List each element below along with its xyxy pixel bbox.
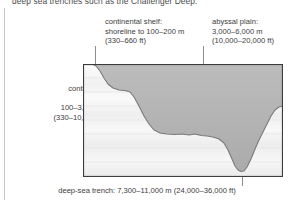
label-continental-shelf-line3: (330–660 ft)	[105, 36, 184, 46]
label-continental-shelf: continental shelf: shoreline to 100–200 …	[105, 17, 184, 46]
label-deep-sea-trench-line1: deep-sea trench: 7,300–11,000 m (24,000–…	[58, 186, 236, 195]
label-abyssal-plain-line2: 3,000–6,000 m	[212, 27, 274, 37]
ocean-profile-diagram	[83, 64, 283, 177]
ocean-profile-svg	[83, 64, 283, 177]
label-continental-shelf-line2: shoreline to 100–200 m	[105, 27, 184, 37]
body-text-line: deep sea trenches such as the Challenger…	[12, 0, 282, 7]
leader-line-continental-shelf	[95, 46, 96, 65]
label-deep-sea-trench: deep-sea trench: 7,300–11,000 m (24,000–…	[0, 186, 294, 196]
label-abyssal-plain: abyssal plain: 3,000–6,000 m (10,000–20,…	[212, 17, 274, 46]
column-rule	[4, 8, 5, 200]
diagram-figure: deep sea trenches such as the Challenger…	[0, 0, 294, 209]
label-abyssal-plain-line3: (10,000–20,000 ft)	[212, 36, 274, 46]
label-continental-shelf-line1: continental shelf:	[105, 17, 184, 27]
label-abyssal-plain-line1: abyssal plain:	[212, 17, 274, 27]
